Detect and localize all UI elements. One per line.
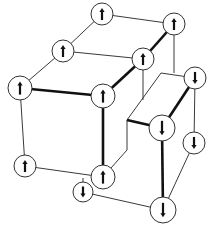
- lattice-site-up: [91, 165, 115, 189]
- thin-bond: [63, 51, 143, 59]
- lattice-site-up: [91, 3, 113, 25]
- lattice-site-up: [132, 48, 154, 70]
- thick-bond: [20, 88, 103, 96]
- lattice-site-up: [163, 13, 185, 35]
- lattice-site-down: [149, 115, 175, 141]
- lattice-site-up: [8, 76, 32, 100]
- lattice-site-up: [91, 84, 115, 108]
- lattice-site-down: [150, 197, 176, 223]
- lattice-site-up: [14, 155, 36, 177]
- lattice-sites: [8, 3, 206, 223]
- lattice-site-up: [52, 40, 74, 62]
- spin-lattice-diagram: [0, 0, 217, 230]
- lattice-site-down: [73, 182, 93, 202]
- lattice-svg: [0, 0, 217, 230]
- thin-bond: [127, 73, 161, 120]
- lattice-site-down: [184, 67, 206, 89]
- lattice-site-down: [183, 132, 205, 154]
